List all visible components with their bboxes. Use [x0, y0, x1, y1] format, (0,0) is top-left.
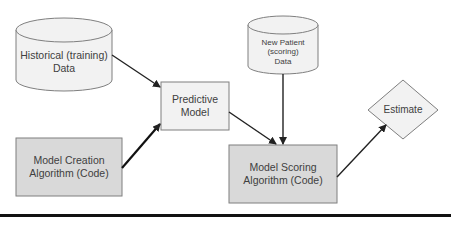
- label-line: Estimate: [384, 104, 423, 117]
- label-line: Historical (training): [20, 49, 108, 62]
- model-creation-label: Model Creation Algorithm (Code): [16, 138, 122, 196]
- model-scoring-label: Model Scoring Algorithm (Code): [229, 145, 337, 203]
- label-line: Algorithm (Code): [29, 167, 108, 180]
- label-line: Model: [181, 106, 210, 119]
- label-line: Predictive: [172, 93, 218, 106]
- label-line: Data: [53, 62, 75, 75]
- label-line: (scoring): [267, 47, 298, 57]
- arrow-creation-to-predictive: [122, 124, 160, 168]
- new-patient-data-label: New Patient (scoring) Data: [248, 34, 318, 70]
- label-line: Model Creation: [33, 154, 104, 167]
- label-line: Data: [275, 57, 292, 67]
- label-line: Algorithm (Code): [243, 174, 322, 187]
- arrow-scoring-to-estimate: [337, 125, 386, 177]
- label-line: New Patient: [261, 38, 304, 48]
- arrow-historical-to-predictive: [112, 55, 160, 87]
- estimate-label: Estimate: [368, 100, 438, 120]
- arrow-predictive-to-scoring: [229, 112, 276, 144]
- bottom-rule: [0, 214, 451, 217]
- label-line: Model Scoring: [249, 161, 316, 174]
- historical-data-label: Historical (training) Data: [16, 44, 112, 80]
- predictive-model-label: Predictive Model: [161, 82, 229, 130]
